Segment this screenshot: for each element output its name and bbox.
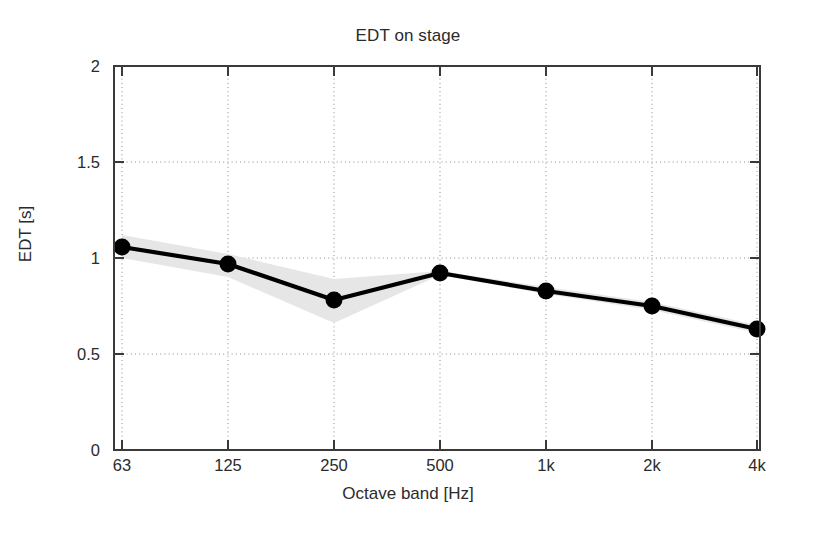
y-tick-label-1_5: 1.5 (40, 154, 100, 171)
y-tick-label-0_5: 0.5 (40, 346, 100, 363)
x-tick-label-500: 500 (405, 457, 475, 474)
data-point-250 (326, 292, 343, 309)
data-point-500 (432, 265, 449, 282)
plot-canvas (0, 0, 816, 535)
x-axis-label: Octave band [Hz] (0, 484, 816, 504)
data-point-1k (538, 283, 555, 300)
y-axis-label: EDT [s] (16, 164, 36, 304)
y-tick-label-2: 2 (40, 58, 100, 75)
data-point-63 (114, 239, 131, 256)
data-point-125 (220, 256, 237, 273)
x-tick-label-4k: 4k (722, 457, 792, 474)
y-tick-label-1: 1 (40, 250, 100, 267)
data-point-4k (749, 321, 766, 338)
x-tick-label-63: 63 (87, 457, 157, 474)
x-tick-label-250: 250 (299, 457, 369, 474)
chart-figure: EDT on stage (0, 0, 816, 535)
x-tick-label-1k: 1k (511, 457, 581, 474)
x-tick-label-2k: 2k (617, 457, 687, 474)
x-tick-label-125: 125 (193, 457, 263, 474)
data-point-2k (644, 298, 661, 315)
